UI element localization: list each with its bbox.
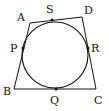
geometry-diagram: A D C B S R Q P — [0, 0, 109, 111]
tangent-label-q: Q — [50, 94, 59, 107]
vertex-label-d: D — [84, 4, 93, 17]
tangent-point-p — [22, 47, 25, 50]
tangent-point-s — [51, 19, 54, 22]
tangent-points — [22, 19, 90, 91]
inscribed-circle — [22, 22, 88, 88]
diagram-canvas: A D C B S R Q P — [0, 0, 109, 111]
vertex-label-b: B — [3, 85, 11, 98]
tangent-point-q — [55, 88, 58, 91]
tangent-label-p: P — [10, 42, 18, 55]
vertex-label-c: C — [94, 94, 102, 107]
vertex-label-a: A — [16, 11, 26, 24]
tangent-label-r: R — [91, 42, 100, 55]
tangent-label-s: S — [46, 3, 54, 16]
tangent-point-r — [87, 47, 90, 50]
quadrilateral-abcd — [14, 17, 96, 89]
